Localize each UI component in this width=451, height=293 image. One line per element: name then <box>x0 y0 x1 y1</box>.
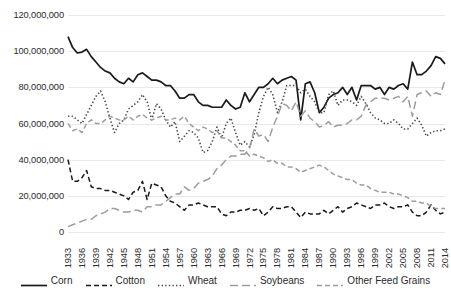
x-tick-label: 2002 <box>384 248 394 268</box>
x-tick-label: 1972 <box>245 248 255 268</box>
y-tick-label: 100,000,000 <box>13 46 64 56</box>
series-line-soybeans <box>68 80 445 226</box>
series-layer <box>68 15 445 232</box>
series-line-corn <box>68 37 445 120</box>
x-tick-label: 1993 <box>342 248 352 268</box>
legend-label-soybeans: Soybeans <box>260 275 304 286</box>
plot-area <box>68 15 445 232</box>
x-tick-label: 2005 <box>398 248 408 268</box>
x-tick-label: 2011 <box>426 248 436 268</box>
x-tick-label: 1999 <box>370 248 380 268</box>
legend-item-corn[interactable]: Corn <box>21 275 73 286</box>
x-tick-label: 1936 <box>77 248 87 268</box>
y-tick-label: 120,000,000 <box>13 10 64 20</box>
legend-item-wheat[interactable]: Wheat <box>158 275 217 286</box>
chart-container: 020,000,00040,000,00060,000,00080,000,00… <box>0 0 451 293</box>
x-tick-label: 2008 <box>412 248 422 268</box>
legend-label-cotton: Cotton <box>116 275 145 286</box>
x-tick-label: 1948 <box>133 248 143 268</box>
legend-label-wheat: Wheat <box>188 275 217 286</box>
x-tick-label: 1984 <box>300 248 310 268</box>
x-tick-label: 1939 <box>91 248 101 268</box>
legend-swatch-wheat <box>158 276 184 285</box>
legend-swatch-other-feed-grains <box>317 276 343 285</box>
chart-legend: CornCottonWheatSoybeansOther Feed Grains <box>0 270 451 290</box>
y-tick-label: 80,000,000 <box>18 82 64 92</box>
x-tick-label: 1933 <box>63 248 73 268</box>
x-tick-label: 1969 <box>231 248 241 268</box>
x-tick-label: 1963 <box>203 248 213 268</box>
x-tick-label: 1942 <box>105 248 115 268</box>
legend-label-corn: Corn <box>51 275 73 286</box>
x-tick-label: 2014 <box>440 248 450 268</box>
legend-item-cotton[interactable]: Cotton <box>86 275 145 286</box>
legend-swatch-cotton <box>86 276 112 285</box>
x-tick-label: 1945 <box>119 248 129 268</box>
x-tick-label: 1990 <box>328 248 338 268</box>
y-axis: 020,000,00040,000,00060,000,00080,000,00… <box>0 15 64 232</box>
legend-swatch-soybeans <box>230 276 256 285</box>
y-tick-label: 40,000,000 <box>18 155 64 165</box>
x-tick-label: 1966 <box>217 248 227 268</box>
x-tick-label: 1996 <box>356 248 366 268</box>
gridline <box>68 232 445 233</box>
x-tick-label: 1975 <box>258 248 268 268</box>
x-tick-label: 1957 <box>175 248 185 268</box>
x-axis: 1933193619391942194519481951195419571960… <box>68 234 445 268</box>
series-line-cotton <box>68 160 445 218</box>
legend-swatch-corn <box>21 276 47 285</box>
y-tick-label: 60,000,000 <box>18 119 64 129</box>
y-tick-label: 0 <box>59 227 64 237</box>
x-tick-label: 1951 <box>147 248 157 268</box>
x-tick-label: 1960 <box>189 248 199 268</box>
x-tick-label: 1981 <box>286 248 296 268</box>
x-tick-label: 1987 <box>314 248 324 268</box>
legend-label-other-feed-grains: Other Feed Grains <box>347 275 430 286</box>
series-line-other-feed-grains <box>68 114 445 208</box>
legend-item-soybeans[interactable]: Soybeans <box>230 275 304 286</box>
x-tick-label: 1978 <box>272 248 282 268</box>
x-tick-label: 1954 <box>161 248 171 268</box>
y-tick-label: 20,000,000 <box>18 191 64 201</box>
legend-item-other-feed-grains[interactable]: Other Feed Grains <box>317 275 430 286</box>
